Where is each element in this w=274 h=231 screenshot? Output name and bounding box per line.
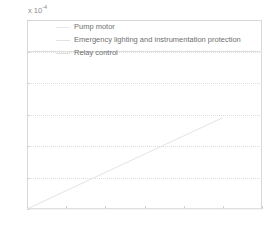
legend-label: Pump motor <box>74 23 115 31</box>
legend-entry: Emergency lighting and instrumentation p… <box>56 34 256 46</box>
y-axis-exponent-label: x 10-4 <box>28 5 47 14</box>
x-tick-mark <box>262 206 263 209</box>
series-line <box>27 118 223 209</box>
legend-line-swatch <box>56 27 70 28</box>
exponent-power: -4 <box>42 4 47 10</box>
legend-entry: Relay control <box>56 47 256 59</box>
legend-entry: Pump motor <box>56 21 256 33</box>
legend-label: Relay control <box>74 49 118 57</box>
legend-line-swatch <box>56 40 70 41</box>
legend-line-swatch <box>56 53 70 54</box>
exponent-prefix: x 10 <box>28 6 42 15</box>
legend-label: Emergency lighting and instrumentation p… <box>74 36 241 44</box>
legend: Pump motorEmergency lighting and instrum… <box>56 21 256 60</box>
figure-canvas: x 10-4 00.20.40.60.811.2 051015202530 Pu… <box>0 0 274 231</box>
